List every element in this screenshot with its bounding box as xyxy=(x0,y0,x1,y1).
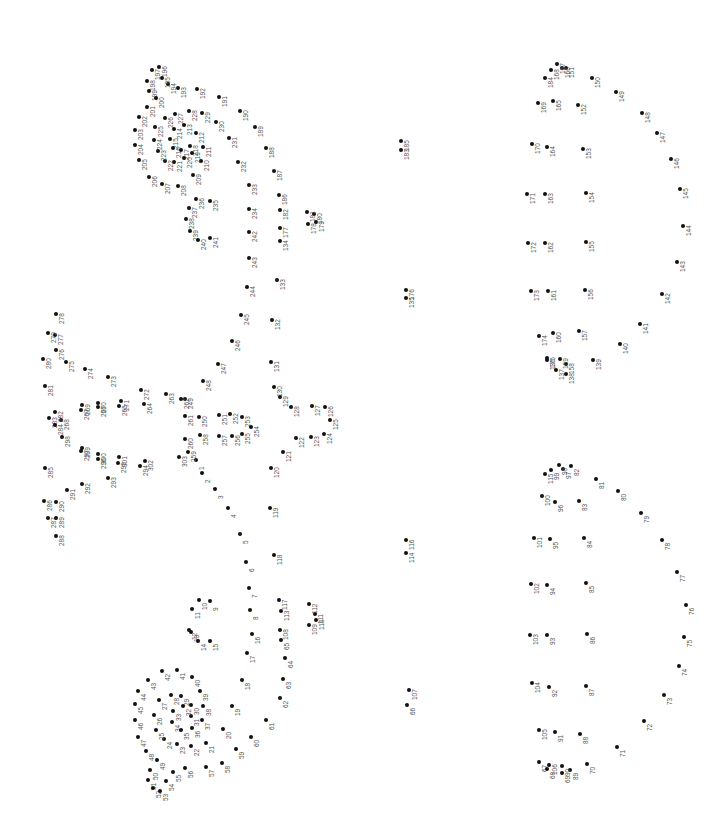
dot-point xyxy=(208,599,212,603)
dot-point xyxy=(548,537,552,541)
dot-number-label: 241 xyxy=(213,237,220,248)
dot-number-label: 247 xyxy=(221,363,228,374)
dot-point xyxy=(151,786,155,790)
dot-number-label: 156 xyxy=(588,289,595,300)
dot-number-label: 165 xyxy=(556,100,563,111)
dot-number-label: 106 xyxy=(552,764,559,775)
dot-point xyxy=(245,651,249,655)
dot-number-label: 154 xyxy=(589,192,596,203)
dot-point xyxy=(136,735,140,739)
dot-point xyxy=(154,728,158,732)
dot-number-label: 2 xyxy=(205,479,212,483)
dot-number-label: 276 xyxy=(59,349,66,360)
dot-number-label: 4 xyxy=(231,514,238,518)
dot-number-label: 245 xyxy=(244,314,251,325)
dot-number-label: 191 xyxy=(222,96,229,107)
dot-number-label: 99 xyxy=(554,473,561,480)
dot-point xyxy=(677,664,681,668)
dot-number-label: 243 xyxy=(252,257,259,268)
dot-number-label: 290 xyxy=(59,501,66,512)
dot-number-label: 258 xyxy=(203,434,210,445)
dot-point xyxy=(200,718,204,722)
dot-point xyxy=(244,560,248,564)
dot-point xyxy=(148,768,152,772)
dot-number-label: 119 xyxy=(273,508,280,518)
dot-number-label: 298 xyxy=(65,436,72,447)
dot-number-label: 60 xyxy=(254,740,261,747)
dot-number-label: 233 xyxy=(252,184,259,195)
dot-number-label: 197 xyxy=(155,69,162,80)
dot-number-label: 89 xyxy=(573,773,580,780)
dot-point xyxy=(557,463,561,467)
dot-point xyxy=(684,603,688,607)
dot-point xyxy=(164,779,168,783)
dot-point xyxy=(133,702,137,706)
dot-number-label: 256 xyxy=(235,435,242,446)
dot-number-label: 6 xyxy=(249,568,256,572)
dot-point xyxy=(208,639,212,643)
dot-number-label: 15 xyxy=(213,644,220,651)
dot-number-label: 285 xyxy=(48,467,55,478)
dot-number-label: 255 xyxy=(245,433,252,444)
dot-number-label: 9 xyxy=(213,607,220,611)
dot-number-label: 83 xyxy=(582,504,589,511)
dot-point xyxy=(281,677,285,681)
dot-number-label: 203 xyxy=(138,129,145,140)
dot-number-label: 263 xyxy=(169,393,176,404)
dot-number-label: 56 xyxy=(188,771,195,778)
dot-number-label: 268 xyxy=(64,419,71,430)
dot-point xyxy=(545,633,549,637)
dot-point xyxy=(545,767,549,771)
dot-number-label: 121 xyxy=(286,451,293,462)
dot-number-label: 91 xyxy=(558,735,565,742)
dot-number-label: 302 xyxy=(148,460,155,471)
dot-number-label: 299 xyxy=(85,447,92,458)
dot-number-label: 187 xyxy=(277,170,284,181)
dot-number-label: 25 xyxy=(159,733,166,740)
dot-number-label: 163 xyxy=(548,193,555,204)
dot-number-label: 102 xyxy=(534,583,541,594)
dot-point xyxy=(175,742,179,746)
dot-number-label: 112 xyxy=(312,604,319,614)
dot-number-label: 108 xyxy=(283,629,290,640)
dot-number-label: 39 xyxy=(203,694,210,701)
dot-number-label: 206 xyxy=(152,176,159,187)
dot-number-label: 24 xyxy=(167,742,174,749)
dot-number-label: 162 xyxy=(548,242,555,253)
dot-number-label: 125 xyxy=(333,419,340,430)
dot-point xyxy=(196,639,200,643)
dot-number-label: 177 xyxy=(283,227,290,238)
dot-point xyxy=(234,747,238,751)
dot-number-label: 238 xyxy=(189,218,196,229)
dot-point xyxy=(169,693,173,697)
dot-number-label: 85 xyxy=(589,586,596,593)
dot-point xyxy=(204,741,208,745)
dot-number-label: 127 xyxy=(315,405,322,416)
dot-number-label: 128 xyxy=(294,406,301,417)
dot-number-label: 16 xyxy=(255,637,262,644)
dot-point xyxy=(584,684,588,688)
dot-number-label: 123 xyxy=(314,436,321,447)
dot-number-label: 200 xyxy=(159,97,166,108)
dot-number-label: 257 xyxy=(222,435,229,446)
dot-number-label: 69 xyxy=(565,776,572,783)
dot-number-label: 281 xyxy=(48,385,55,396)
dot-number-label: 167 xyxy=(560,63,567,74)
dot-number-label: 8 xyxy=(253,616,260,620)
dot-point xyxy=(594,477,598,481)
dot-point xyxy=(170,720,174,724)
dot-point xyxy=(247,586,251,590)
dot-point xyxy=(240,678,244,682)
dot-number-label: 273 xyxy=(111,376,118,387)
dot-number-label: 14 xyxy=(201,644,208,651)
dot-number-label: 250 xyxy=(202,416,209,427)
dot-number-label: 186 xyxy=(282,194,289,205)
dot-number-label: 140 xyxy=(623,343,630,354)
dot-number-label: 147 xyxy=(660,132,667,143)
dot-number-label: 143 xyxy=(680,261,687,272)
dot-number-label: 40 xyxy=(195,680,202,687)
dot-number-label: 289 xyxy=(59,517,66,528)
dot-number-label: 46 xyxy=(138,723,145,730)
dot-point xyxy=(226,506,230,510)
dot-number-label: 277 xyxy=(58,334,65,345)
